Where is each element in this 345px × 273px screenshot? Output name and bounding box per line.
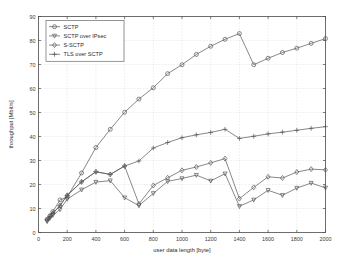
svg-text:1600: 1600: [262, 236, 274, 242]
svg-text:800: 800: [149, 236, 158, 242]
svg-text:600: 600: [120, 236, 129, 242]
legend-label-3: TLS over SCTP: [64, 51, 103, 57]
svg-text:1200: 1200: [205, 236, 217, 242]
legend-label-0: SCTP: [64, 24, 79, 30]
throughput-line-chart: 0200400600800100012001400160018002000010…: [0, 0, 345, 273]
y-axis-label: throughput [Mbit/s]: [8, 100, 14, 148]
legend-label-2: S-SCTP: [64, 42, 85, 48]
x-axis-label: user data length [byte]: [153, 247, 211, 253]
svg-text:200: 200: [63, 236, 72, 242]
svg-text:40: 40: [30, 134, 36, 140]
svg-text:1400: 1400: [233, 236, 245, 242]
svg-text:1000: 1000: [176, 236, 188, 242]
svg-text:20: 20: [30, 182, 36, 188]
chart-legend: SCTPSCTP over IPsecS-SCTPTLS over SCTP: [46, 21, 124, 62]
svg-text:50: 50: [30, 110, 36, 116]
svg-text:400: 400: [91, 236, 100, 242]
svg-text:0: 0: [37, 236, 40, 242]
legend-label-1: SCTP over IPsec: [64, 33, 107, 39]
svg-text:10: 10: [30, 206, 36, 212]
svg-text:80: 80: [30, 38, 36, 44]
svg-text:90: 90: [30, 14, 36, 20]
svg-text:70: 70: [30, 62, 36, 68]
svg-text:0: 0: [33, 230, 36, 236]
svg-text:60: 60: [30, 86, 36, 92]
svg-text:1800: 1800: [291, 236, 303, 242]
svg-text:2000: 2000: [320, 236, 332, 242]
svg-text:30: 30: [30, 158, 36, 164]
chart-figure: 0200400600800100012001400160018002000010…: [0, 0, 345, 273]
